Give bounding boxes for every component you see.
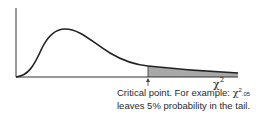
- critical-point-annotation: Critical point. For example: χ2.05 leave…: [117, 85, 250, 111]
- density-curve: [16, 29, 238, 77]
- subscript: .05: [242, 91, 250, 97]
- annotation-text: Critical point. For example:: [117, 87, 233, 98]
- annotation-line-2: leaves 5% probability in the tail.: [117, 100, 250, 111]
- annotation-line-1: Critical point. For example: χ2.05: [117, 85, 250, 100]
- arrow-head-icon: [146, 78, 150, 82]
